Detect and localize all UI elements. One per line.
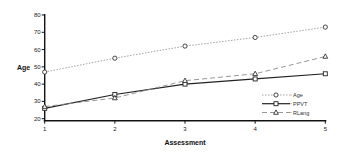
x-tick-label: 2 [113,126,117,132]
x-axis-title: Assessment [164,139,206,146]
x-tick-label: 4 [253,126,257,132]
legend-item-ppvt: PPVT [262,101,308,107]
triangle-marker [323,54,328,58]
triangle-marker [42,104,47,108]
x-tick-label: 3 [183,126,187,132]
y-axis-title: Age [17,64,30,72]
x-tick-label: 1 [43,126,47,132]
legend: AgePPVTRLang [262,92,309,116]
legend-label: PPVT [293,101,308,107]
x-axis: 12345 [43,121,328,132]
triangle-marker [253,71,258,75]
square-marker [253,77,257,81]
circle-marker [113,56,117,60]
circle-marker [253,35,257,39]
circle-marker [43,70,47,74]
circle-legend-icon [274,93,278,97]
y-tick-label: 80 [34,12,41,18]
triangle-legend-icon [274,110,279,114]
y-tick-label: 20 [34,116,41,122]
legend-label: RLang [293,110,309,116]
line-chart: 20304050607080 12345 Age Assessment AgeP… [0,0,345,155]
y-tick-label: 60 [34,47,41,53]
y-tick-label: 50 [34,64,41,70]
y-tick-label: 40 [34,81,41,87]
legend-item-age: Age [262,92,303,98]
legend-label: Age [293,92,303,98]
y-axis: 20304050607080 [34,12,45,122]
square-marker [323,72,327,76]
triangle-marker [183,78,188,82]
legend-item-rlang: RLang [262,110,309,116]
circle-marker [183,44,187,48]
square-legend-icon [274,102,278,106]
plot-series [42,25,327,110]
circle-marker [323,25,327,29]
y-tick-label: 70 [34,29,41,35]
x-tick-label: 5 [324,126,328,132]
y-tick-label: 30 [34,98,41,104]
